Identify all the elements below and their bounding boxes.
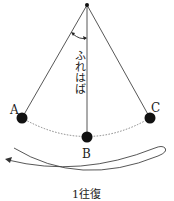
pivot-point [85, 3, 89, 7]
label-b: B [82, 147, 91, 161]
arrowhead-left-icon [5, 157, 12, 163]
arrowhead-right-icon [83, 36, 87, 40]
label-a: A [9, 103, 19, 117]
cycle-label: 1往復 [72, 187, 101, 201]
pendulum-diagram: ふれはば A B C 1往復 [0, 0, 174, 201]
label-c: C [151, 101, 160, 115]
string-to-c [87, 5, 150, 118]
bob-b [82, 132, 93, 143]
amplitude-label: ふれはば [73, 50, 87, 94]
